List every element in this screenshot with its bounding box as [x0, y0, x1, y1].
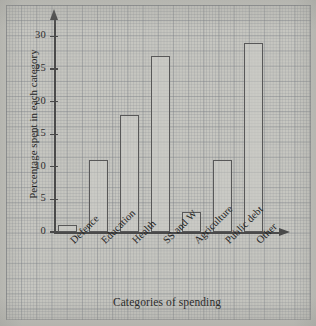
y-tick-label-0: 0 [6, 225, 46, 236]
bar-other [244, 43, 263, 232]
y-tick-25 [50, 68, 58, 69]
y-tick-15 [50, 134, 58, 135]
y-tick-label-20: 20 [6, 95, 46, 106]
y-tick-0 [50, 231, 58, 232]
y-tick-label-5: 5 [6, 192, 46, 203]
x-axis-title: Categories of spending [54, 296, 280, 308]
y-tick-label-30: 30 [6, 29, 46, 40]
y-tick-5 [50, 199, 58, 200]
y-tick-20 [50, 101, 58, 102]
y-tick-10 [50, 166, 58, 167]
y-tick-label-15: 15 [6, 127, 46, 138]
y-tick-label-25: 25 [6, 62, 46, 73]
y-axis-arrow-icon [50, 9, 58, 20]
y-axis-title: Percentage spent in each category [27, 19, 39, 229]
bar-chart-figure: 051015202530 DefenceEducationHealthSS an… [0, 0, 316, 326]
bar-ss-and-w [151, 56, 170, 232]
y-tick-30 [50, 36, 58, 37]
x-axis-arrow-icon [279, 228, 290, 236]
y-axis-line [54, 18, 56, 233]
plot-area: 051015202530 DefenceEducationHealthSS an… [0, 0, 316, 326]
y-tick-label-10: 10 [6, 160, 46, 171]
